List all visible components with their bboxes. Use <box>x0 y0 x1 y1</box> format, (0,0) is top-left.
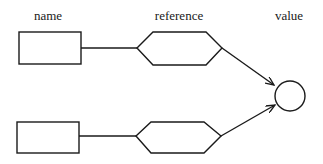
label-reference: reference <box>155 8 204 23</box>
reference-hexagon-1 <box>137 32 222 65</box>
arrow-2 <box>221 105 275 136</box>
arrow-1 <box>222 48 274 85</box>
value-circle <box>275 81 305 111</box>
name-reference-value-diagram: name reference value <box>0 0 323 164</box>
label-name: name <box>34 8 62 23</box>
reference-hexagon-2 <box>136 122 221 153</box>
label-value: value <box>275 8 303 23</box>
name-box-1 <box>19 32 81 64</box>
name-box-2 <box>17 122 79 153</box>
